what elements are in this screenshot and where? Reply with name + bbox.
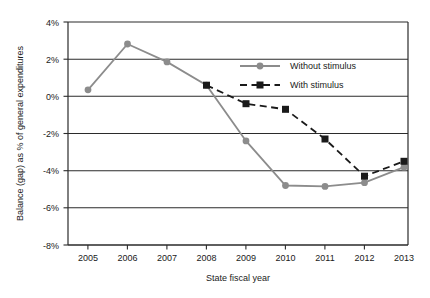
y-tick-label: -8%	[43, 241, 59, 251]
line-chart: 4% 2% 0% -2% -4% -6% -8% 2005 2006 2007 …	[0, 0, 430, 298]
x-tick-label: 2005	[78, 253, 98, 263]
x-tick-label: 2008	[196, 253, 216, 263]
y-tick-label: -4%	[43, 166, 59, 176]
data-point	[282, 182, 289, 189]
x-tick-marks	[88, 245, 365, 250]
data-point	[361, 179, 368, 186]
series-without-stimulus	[85, 41, 408, 190]
chart-container: 4% 2% 0% -2% -4% -6% -8% 2005 2006 2007 …	[0, 0, 430, 298]
legend-item-without-stimulus[interactable]: Without stimulus	[240, 61, 357, 71]
data-point	[322, 183, 329, 190]
y-tick-label: -6%	[43, 203, 59, 213]
data-point	[361, 173, 368, 180]
legend-label-without-stimulus: Without stimulus	[290, 61, 357, 71]
y-tick-marks	[64, 22, 69, 245]
legend-marker-circle	[257, 63, 264, 70]
gridlines	[68, 22, 408, 245]
data-point	[282, 106, 289, 113]
legend-label-with-stimulus: With stimulus	[290, 80, 344, 90]
series-line-with-stimulus	[207, 85, 405, 176]
data-point	[322, 136, 329, 143]
x-tick-label: 2011	[315, 253, 334, 263]
data-point	[401, 158, 408, 165]
x-tick-label: 2009	[236, 253, 256, 263]
x-tick-label: 2007	[157, 253, 177, 263]
data-point	[85, 86, 92, 93]
y-axis-tick-labels: 4% 2% 0% -2% -4% -6% -8%	[43, 18, 59, 251]
data-point	[243, 138, 250, 145]
x-tick-label: 2013	[394, 253, 414, 263]
x-axis-title: State fiscal year	[206, 273, 270, 283]
data-point	[401, 164, 408, 171]
chart-legend: Without stimulus With stimulus	[240, 61, 357, 90]
y-tick-label: -2%	[43, 129, 59, 139]
data-point	[203, 82, 210, 89]
y-axis-title: Balance (gap) as % of general expenditur…	[15, 45, 25, 221]
data-point	[124, 41, 131, 48]
y-tick-label: 0%	[46, 92, 59, 102]
x-tick-label: 2010	[275, 253, 295, 263]
legend-marker-square	[257, 82, 264, 89]
y-tick-label: 2%	[46, 55, 59, 65]
x-axis-tick-labels: 2005 2006 2007 2008 2009 2010 2011 2012 …	[78, 253, 414, 263]
y-tick-label: 4%	[46, 18, 59, 28]
x-tick-label: 2006	[117, 253, 137, 263]
data-point	[243, 100, 250, 107]
x-tick-label: 2012	[354, 253, 374, 263]
data-point	[164, 59, 171, 66]
series-markers-without-stimulus	[85, 41, 408, 190]
legend-item-with-stimulus[interactable]: With stimulus	[240, 80, 344, 90]
